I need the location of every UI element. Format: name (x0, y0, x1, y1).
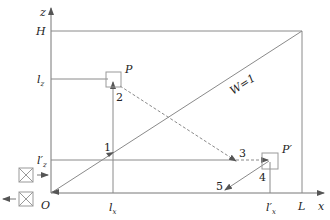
diagram-canvas: z H lz l′z O lx l′x L x P P′ W=1 1 2 3 4… (0, 0, 330, 220)
step-label-2: 2 (116, 91, 123, 104)
lx-label: lx (109, 201, 117, 216)
lx-prime-label: l′x (266, 201, 276, 216)
l-label: L (297, 200, 305, 213)
dashed-arrow-3 (120, 86, 236, 161)
point-p-prime-label: P′ (281, 143, 292, 156)
crossed-box-lower (19, 192, 33, 206)
diagram-svg: z H lz l′z O lx l′x L x P P′ W=1 1 2 3 4… (0, 0, 330, 220)
step-label-3: 3 (239, 147, 246, 160)
step-label-1: 1 (104, 141, 111, 154)
diagonal-w1-label: W=1 (228, 72, 258, 98)
h-label: H (35, 25, 46, 38)
x-axis-label: x (318, 200, 325, 213)
z-axis-label: z (39, 6, 46, 19)
lz-label: lz (37, 73, 45, 88)
crossed-box-upper (19, 168, 33, 182)
step-label-4: 4 (259, 171, 266, 184)
step-label-5: 5 (216, 180, 223, 193)
point-p-label: P (124, 63, 133, 76)
lz-prime-label: l′z (37, 154, 47, 169)
origin-label: O (41, 199, 50, 212)
